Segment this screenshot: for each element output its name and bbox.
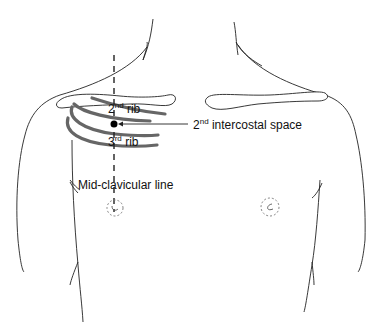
arrowhead-icon (118, 122, 123, 127)
left-torso-outline (72, 140, 83, 322)
right-clavicle (205, 92, 327, 109)
label-2nd-intercostal-space: 2nd intercostal space (193, 118, 302, 132)
chest-diagram (0, 0, 384, 332)
neck-right-line (234, 22, 238, 55)
right-torso-outline (304, 180, 320, 312)
label-mid-clavicular-line: Mid-clavicular line (78, 178, 173, 192)
left-nipple (107, 200, 123, 216)
right-pec-line (312, 183, 322, 198)
right-armpit-line (312, 262, 314, 285)
left-armpit-line (70, 262, 78, 285)
label-3rd-rib: 3rd rib (108, 135, 138, 149)
neck-right-curve (236, 42, 262, 66)
intercostal-marker-dot (111, 121, 118, 128)
right-nipple (261, 198, 279, 216)
label-2nd-rib: 2nd rib (108, 102, 140, 116)
right-shoulder-arm-outline (238, 45, 365, 272)
left-shoulder-arm-outline (17, 47, 147, 272)
